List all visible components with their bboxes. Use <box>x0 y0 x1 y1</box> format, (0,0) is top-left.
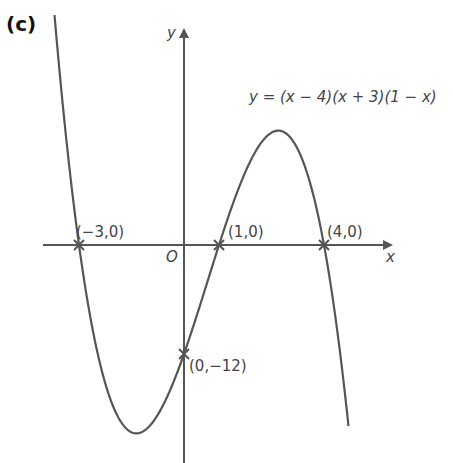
point-label: (−3,0) <box>76 223 124 241</box>
y-axis-label: y <box>166 24 177 42</box>
point-label: (1,0) <box>228 223 264 241</box>
chart-figure: (c) x y O y = (x − 4)(x + 3)(1 − x) (−3,… <box>0 0 453 463</box>
function-label: y = (x − 4)(x + 3)(1 − x) <box>248 88 437 106</box>
point-label: (4,0) <box>327 223 363 241</box>
point-label: (0,−12) <box>189 357 247 375</box>
x-axis-label: x <box>385 248 395 266</box>
plot-area: x y O y = (x − 4)(x + 3)(1 − x) (−3,0)(1… <box>0 0 453 463</box>
origin-label: O <box>166 248 178 266</box>
